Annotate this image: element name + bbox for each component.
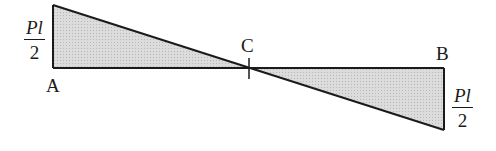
right-moment-value: Pl 2 [452,86,473,130]
left-value-denominator: 2 [30,40,40,62]
point-c-label: C [241,36,254,55]
point-a-label: A [46,76,60,95]
left-value-numerator: Pl [24,18,45,40]
moment-diagram-canvas [0,0,496,151]
right-value-numerator: Pl [452,86,473,108]
right-value-denominator: 2 [458,108,468,130]
point-b-label: B [436,44,449,63]
left-moment-value: Pl 2 [24,18,45,62]
